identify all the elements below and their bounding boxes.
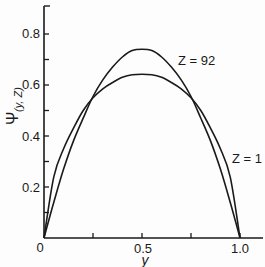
y-tick-label-0.8: 0.8 [22, 26, 40, 41]
curve-z-1 [44, 74, 240, 238]
x-axis-title: y [141, 252, 150, 267]
y-tick-label-0.2: 0.2 [22, 180, 40, 195]
x-tick-label-1.0: 1.0 [231, 241, 249, 256]
curve-z-92 [44, 49, 240, 238]
annotation-z-92: Z = 92 [178, 53, 215, 68]
annotation-z-1: Z = 1 [232, 151, 262, 166]
psi-subscript: (y, Z) [12, 87, 24, 112]
plot-area: 0.8 0.6 0.4 0.2 0 0.5 1.0 y Ψ (y, Z) Z =… [0, 0, 265, 267]
x-tick-label-0: 0 [36, 240, 43, 255]
y-axis-title: Ψ (y, Z) [4, 87, 24, 125]
y-tick-label-0.6: 0.6 [22, 77, 40, 92]
y-tick-label-0.4: 0.4 [22, 129, 40, 144]
psi-symbol: Ψ [4, 112, 21, 125]
chart-container: 0.8 0.6 0.4 0.2 0 0.5 1.0 y Ψ (y, Z) Z =… [0, 0, 265, 267]
